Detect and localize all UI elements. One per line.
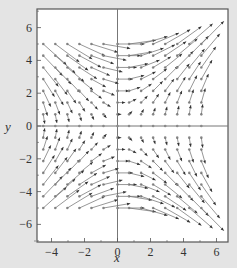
y-tick-label: −6	[19, 217, 32, 231]
field-sample-dot	[90, 66, 93, 69]
field-sample-dot	[90, 113, 93, 116]
field-sample-dot	[78, 195, 81, 198]
x-tick-label: 6	[214, 245, 220, 259]
field-sample-dot	[42, 90, 45, 93]
field-sample-dot	[102, 125, 105, 128]
field-sample-dot	[66, 125, 69, 128]
field-sample-dot	[140, 125, 143, 128]
y-tick-label: 6	[26, 21, 32, 35]
field-sample-dot	[152, 125, 155, 128]
field-sample-dot	[116, 125, 119, 128]
field-sample-dot	[78, 207, 81, 210]
field-sample-dot	[78, 43, 81, 46]
y-tick-label: 0	[26, 119, 32, 133]
field-sample-dot	[90, 172, 93, 175]
field-sample-dot	[90, 183, 93, 186]
field-sample-dot	[90, 136, 93, 139]
chart: −4−20246 −6−4−20246 x y	[0, 0, 237, 268]
field-sample-dot	[176, 125, 179, 128]
x-tick-label: 2	[148, 245, 154, 259]
field-sample-dot	[78, 125, 81, 128]
field-sample-dot	[54, 125, 57, 128]
field-sample-dot	[78, 54, 81, 57]
y-tick-label: 2	[26, 86, 32, 100]
field-sample-dot	[42, 125, 45, 128]
x-axis-label: x	[113, 250, 120, 265]
field-sample-dot	[90, 78, 93, 81]
field-sample-dot	[90, 125, 93, 128]
y-axis-label: y	[3, 119, 11, 134]
x-tick-label: −2	[78, 245, 91, 259]
y-tick-label: −4	[19, 185, 32, 199]
vector-field-plot: −4−20246 −6−4−20246 x y	[0, 0, 237, 268]
x-tick-label: −4	[45, 245, 58, 259]
field-sample-dot	[188, 125, 191, 128]
field-sample-dot	[66, 101, 69, 104]
y-tick-label: −2	[19, 152, 32, 166]
y-tick-label: 4	[26, 53, 32, 67]
x-tick-label: 4	[181, 245, 187, 259]
field-sample-dot	[200, 125, 203, 128]
field-sample-dot	[164, 125, 167, 128]
field-sample-dot	[128, 125, 131, 128]
